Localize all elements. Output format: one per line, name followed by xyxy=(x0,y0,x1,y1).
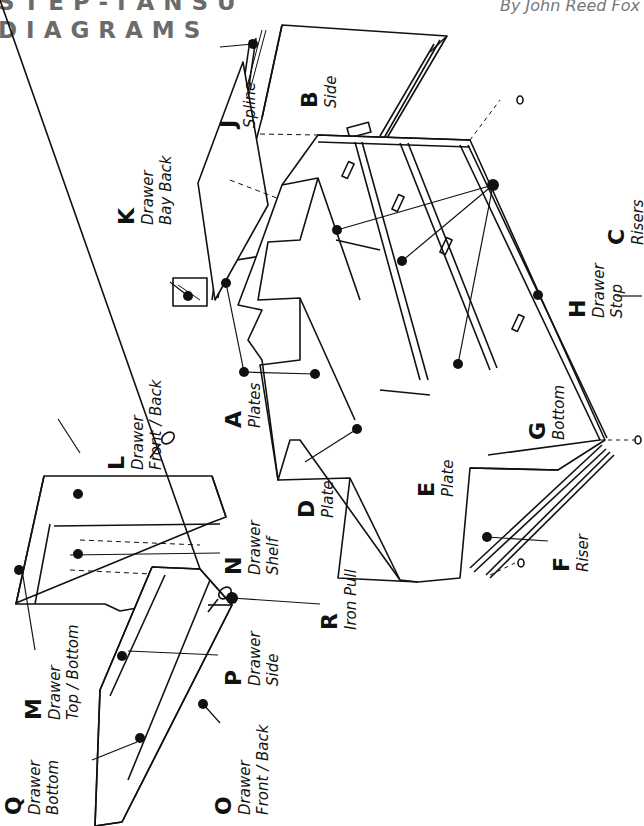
callout-f-riser: F Riser xyxy=(550,534,592,572)
callout-m-drawer-top-bottom: M Drawer Top / Bottom xyxy=(22,624,82,720)
callout-g-bottom: G Bottom xyxy=(526,385,568,440)
callout-c-risers: C Risers xyxy=(605,199,644,245)
callout-d-plate: D Plate xyxy=(295,480,337,518)
callout-r-iron-pull: R Iron Pull xyxy=(318,569,360,630)
callout-n-drawer-shelf: N Drawer Shelf xyxy=(222,520,282,575)
callout-q-drawer-bottom: Q Drawer Bottom xyxy=(2,760,62,815)
callout-o-drawer-front-back: O Drawer Front / Back xyxy=(212,725,272,815)
callout-j-spline: J Spline xyxy=(217,82,259,128)
callout-a-plates: A Plates xyxy=(222,383,264,428)
callout-b-side: B Side xyxy=(298,76,340,108)
callout-l-drawer-front-back: L Drawer Front / Back xyxy=(105,380,165,470)
callout-e-plate: E Plate xyxy=(415,459,457,497)
callout-p-drawer-side: P Drawer Side xyxy=(222,631,282,686)
callout-h-drawer-stop: H Drawer Stop xyxy=(566,263,626,318)
callout-k-drawer-bay-back: K Drawer Bay Back xyxy=(115,155,175,225)
